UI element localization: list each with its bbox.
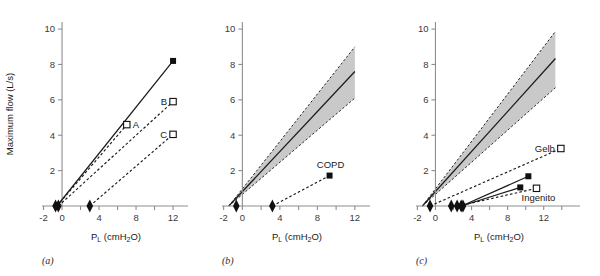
x-tick-label: 12 [538,212,549,223]
y-tick-label: 4 [423,130,428,141]
chart-panel-c: -204812246810GelbIngenitoPL (cmH2O)(c) [392,0,600,276]
x-tick-label: 4 [469,212,474,223]
series-line-ingenito-post [462,187,521,206]
axes-group [42,22,188,210]
y-tick-label: 4 [230,130,235,141]
x-axis-title-end: O) [311,231,322,242]
y-axis-title: Maximum flow (L/s) [4,73,15,155]
y-tick-label: 6 [230,94,235,105]
y-tick-label: 10 [418,23,429,34]
marker-open-square [170,131,176,137]
series-label-gelb: Gelb [535,143,555,154]
x-axis-title-mid: (cmH [101,231,126,242]
x-tick-label: 4 [96,212,101,223]
y-tick-label: 2 [423,165,428,176]
y-tick-label: 8 [423,59,428,70]
marker-open-square [533,185,539,191]
series-line-gelb-post [462,176,529,206]
x-tick-label: 12 [168,212,179,223]
x-axis-title-end: O) [130,231,141,242]
y-tick-label: 8 [50,59,55,70]
marker-filled-square [525,173,531,179]
marker-open-square [558,145,564,151]
diamond-marker [269,200,276,213]
series-label-c: C [160,129,167,140]
panel-letter-a: (a) [42,255,54,267]
x-tick-label: 8 [505,212,510,223]
series-label-copd: COPD [317,159,345,170]
x-tick-label: 4 [277,212,282,223]
chart-panel-a: -204812246810ABCPL (cmH2O)Maximum flow (… [0,0,198,276]
y-tick-label: 2 [230,165,235,176]
panel-a-plot: -204812246810ABCPL (cmH2O)Maximum flow (… [0,0,198,276]
normal-range-band-group [229,47,355,206]
series-line-c [90,134,173,206]
y-tick-label: 2 [50,165,55,176]
y-tick-label: 4 [50,130,55,141]
x-axis-title: PL (cmH2O) [474,231,524,243]
y-tick-label: 8 [230,59,235,70]
x-axis-title-mid: (cmH [484,231,509,242]
band-center-line [422,59,555,206]
marker-filled-square [170,58,176,64]
series-group [272,176,329,206]
labels-group: -204812246810ABCPL (cmH2O)Maximum flow (… [4,23,178,267]
x-tick-label: 0 [433,212,438,223]
series-label-a: A [133,119,140,130]
axes-group [222,22,370,210]
figure-container: -204812246810ABCPL (cmH2O)Maximum flow (… [0,0,600,276]
y-tick-label: 10 [44,23,55,34]
panel-letter-b: (b) [222,255,234,267]
series-group [57,61,173,206]
series-line-b [58,102,173,206]
x-tick-label: -2 [413,212,421,223]
x-axis-title: PL (cmH2O) [91,231,141,243]
series-line-normal [57,61,173,206]
x-tick-label: -2 [39,212,47,223]
x-tick-label: 0 [240,212,245,223]
y-tick-label: 6 [423,94,428,105]
diamond-marker [427,200,434,213]
x-axis-title: PL (cmH2O) [272,231,322,243]
x-tick-label: 0 [59,212,64,223]
marker-open-square [124,121,130,127]
diamond-marker [87,200,94,213]
series-line-copd [272,176,329,206]
series-label-b: B [161,96,167,107]
panel-letter-c: (c) [416,255,428,267]
x-axis-title-mid: (cmH [282,231,307,242]
x-tick-label: -2 [219,212,227,223]
y-tick-label: 10 [225,23,236,34]
x-tick-label: 8 [315,212,320,223]
diamond-marker [448,200,455,213]
marker-filled-square [327,173,333,179]
marker-filled-square [517,184,523,190]
chart-panel-b: -204812246810COPDPL (cmH2O)(b) [196,0,394,276]
series-label-ingenito: Ingenito [522,192,556,203]
marker-open-square [170,98,176,104]
y-tick-label: 6 [50,94,55,105]
band-center-line [229,72,355,206]
x-tick-label: 8 [133,212,138,223]
x-tick-label: 12 [350,212,361,223]
panel-c-plot: -204812246810GelbIngenitoPL (cmH2O)(c) [392,0,600,276]
x-axis-title-end: O) [513,231,524,242]
band-upper-edge [229,47,355,206]
panel-b-plot: -204812246810COPDPL (cmH2O)(b) [196,0,394,276]
series-line-a [57,125,127,206]
